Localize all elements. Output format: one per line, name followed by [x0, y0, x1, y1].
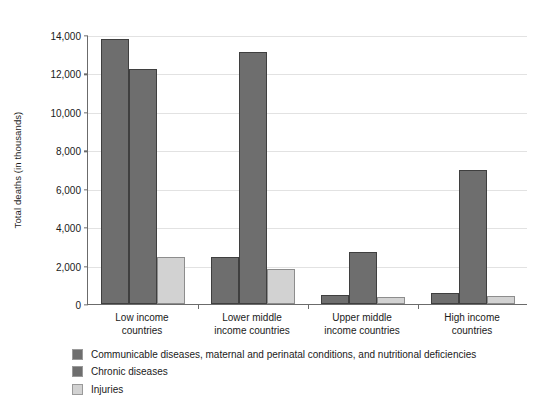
bar-group	[418, 36, 528, 304]
bar	[321, 295, 349, 304]
bar	[101, 39, 129, 304]
y-tick-label: 0	[75, 300, 81, 311]
bar-group	[198, 36, 308, 304]
bar	[349, 252, 377, 304]
legend-label: Communicable diseases, maternal and peri…	[91, 349, 476, 360]
y-tick-label: 2,000	[56, 261, 81, 272]
x-axis-label: High incomecountries	[417, 312, 527, 337]
legend-swatch	[72, 384, 83, 395]
y-tick-mark	[84, 304, 88, 305]
x-axis-label-line: income countries	[307, 325, 417, 338]
bar	[239, 52, 267, 304]
legend-item: Chronic diseases	[72, 364, 476, 380]
bar-chart: Total deaths (in thousands) 02,0004,0006…	[0, 0, 551, 401]
legend-label: Chronic diseases	[91, 366, 168, 377]
y-tick-label: 8,000	[56, 146, 81, 157]
bar	[129, 69, 157, 304]
x-axis-label-line: Low income	[87, 312, 197, 325]
bar	[377, 297, 405, 304]
legend-swatch	[72, 349, 83, 360]
x-axis-separator-tick	[198, 304, 199, 309]
y-tick-label: 6,000	[56, 184, 81, 195]
legend-swatch	[72, 366, 83, 377]
bar-group	[88, 36, 198, 304]
bar	[487, 296, 515, 304]
x-axis-label-line: Upper middle	[307, 312, 417, 325]
y-tick-label: 10,000	[50, 107, 81, 118]
bar	[267, 269, 295, 304]
y-tick-label: 14,000	[50, 31, 81, 42]
bar	[157, 257, 185, 304]
x-axis-label-line: countries	[417, 325, 527, 338]
x-axis-label: Lower middleincome countries	[197, 312, 307, 337]
chart-legend: Communicable diseases, maternal and peri…	[72, 346, 476, 399]
x-axis-label-line: High income	[417, 312, 527, 325]
bar-group	[308, 36, 418, 304]
x-axis-label: Low incomecountries	[87, 312, 197, 337]
y-axis-title: Total deaths (in thousands)	[10, 95, 26, 245]
x-axis-separator-tick	[418, 304, 419, 309]
x-axis-label-line: income countries	[197, 325, 307, 338]
bar	[431, 293, 459, 304]
legend-item: Injuries	[72, 381, 476, 397]
bar	[459, 170, 487, 305]
legend-label: Injuries	[91, 384, 123, 395]
x-axis-separator-tick	[308, 304, 309, 309]
bar	[211, 257, 239, 304]
x-axis-label: Upper middleincome countries	[307, 312, 417, 337]
legend-item: Communicable diseases, maternal and peri…	[72, 346, 476, 362]
plot-area: 02,0004,0006,0008,00010,00012,00014,000	[87, 36, 527, 305]
y-tick-label: 12,000	[50, 69, 81, 80]
y-tick-label: 4,000	[56, 223, 81, 234]
x-axis-label-line: Lower middle	[197, 312, 307, 325]
x-axis-label-line: countries	[87, 325, 197, 338]
